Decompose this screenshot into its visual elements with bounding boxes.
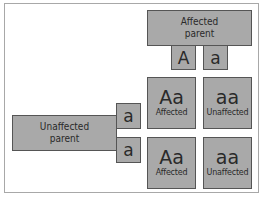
unaffected-parent-label-line1: Unaffected bbox=[40, 121, 89, 133]
top-gamete-A: A bbox=[171, 45, 196, 70]
cell-genotype: Aa bbox=[159, 148, 184, 167]
left-gamete-a-top: a bbox=[116, 103, 141, 129]
unaffected-parent-box: Unaffected parent bbox=[12, 115, 117, 151]
cell-phenotype: Unaffected bbox=[207, 168, 249, 178]
cell-phenotype: Affected bbox=[156, 108, 188, 118]
punnett-cell-bottom-right: aa Unaffected bbox=[203, 137, 252, 189]
cell-genotype: Aa bbox=[159, 88, 184, 107]
cell-genotype: aa bbox=[216, 148, 239, 167]
affected-parent-label-line2: parent bbox=[185, 28, 214, 40]
punnett-cell-bottom-left: Aa Affected bbox=[147, 137, 196, 189]
punnett-cell-top-right: aa Unaffected bbox=[203, 77, 252, 129]
cell-phenotype: Unaffected bbox=[207, 108, 249, 118]
left-gamete-a-bottom: a bbox=[116, 137, 141, 163]
top-gamete-a: a bbox=[203, 45, 228, 70]
unaffected-parent-label-line2: parent bbox=[50, 133, 79, 145]
affected-parent-box: Affected parent bbox=[147, 10, 252, 46]
punnett-cell-top-left: Aa Affected bbox=[147, 77, 196, 129]
affected-parent-label-line1: Affected bbox=[181, 16, 219, 28]
cell-phenotype: Affected bbox=[156, 168, 188, 178]
cell-genotype: aa bbox=[216, 88, 239, 107]
